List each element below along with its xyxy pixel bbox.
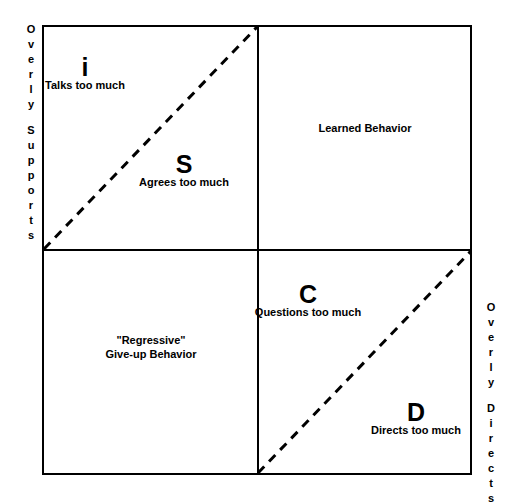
trait-caption-c: Questions too much bbox=[238, 306, 378, 319]
trait-block-s: S Agrees too much bbox=[120, 152, 248, 189]
horizontal-divider bbox=[42, 249, 472, 251]
note-regressive-behavior: "Regressive" Give-up Behavior bbox=[86, 333, 216, 361]
trait-block-c: C Questions too much bbox=[238, 282, 378, 319]
note-regressive-line1: "Regressive" bbox=[86, 333, 216, 347]
diagram-canvas: O v e r l y S u p p o r t s O v e r l y bbox=[0, 0, 514, 504]
trait-caption-s: Agrees too much bbox=[120, 176, 248, 189]
note-learned-behavior: Learned Behavior bbox=[300, 121, 430, 135]
trait-caption-i: Talks too much bbox=[25, 79, 145, 92]
trait-block-i: i Talks too much bbox=[25, 55, 145, 92]
axis-left-line2: S u p p o r t s bbox=[20, 123, 42, 243]
axis-right-line1: O v e r l y bbox=[480, 300, 502, 390]
trait-letter-d: D bbox=[352, 400, 480, 424]
note-learned-behavior-text: Learned Behavior bbox=[300, 121, 430, 135]
note-regressive-line2: Give-up Behavior bbox=[86, 347, 216, 361]
axis-right-line2: D i r e c t s bbox=[480, 401, 502, 504]
trait-letter-c: C bbox=[238, 282, 378, 306]
trait-letter-s: S bbox=[120, 152, 248, 176]
axis-label-right: O v e r l y D i r e c t s bbox=[480, 300, 502, 504]
trait-caption-d: Directs too much bbox=[352, 424, 480, 437]
trait-block-d: D Directs too much bbox=[352, 400, 480, 437]
trait-letter-i: i bbox=[25, 55, 145, 79]
